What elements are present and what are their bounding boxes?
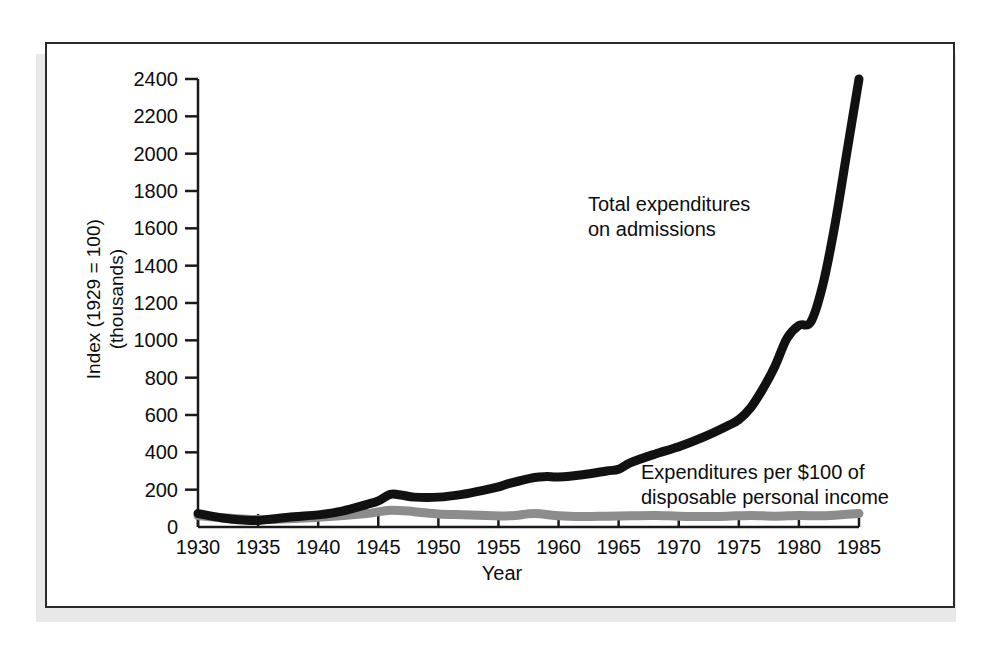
annotation-expenditures-per-income-line-2: disposable personal income	[641, 485, 889, 510]
annotation-expenditures-per-income: Expenditures per $100 of disposable pers…	[641, 460, 889, 510]
chart-plot-container: 0200400600800100012001400160018002000220…	[47, 44, 957, 610]
data-series-layer	[198, 79, 859, 521]
annotation-total-expenditures: Total expenditures on admissions	[588, 192, 750, 242]
x-axis-title: Year	[47, 562, 957, 585]
y-axis-title-line-2: (thousands)	[105, 149, 128, 449]
y-tick-label: 2400	[48, 69, 178, 89]
chart-figure-frame: 0200400600800100012001400160018002000220…	[45, 42, 955, 608]
x-tick-label: 1985	[819, 537, 899, 557]
series-line-total-expenditures	[198, 79, 859, 521]
annotation-expenditures-per-income-line-1: Expenditures per $100 of	[641, 460, 889, 485]
y-tick-label: 2200	[48, 106, 178, 126]
y-tick-label: 200	[48, 480, 178, 500]
y-tick-marks	[185, 79, 198, 490]
y-axis-title-line-1: Index (1929 = 100)	[82, 149, 105, 449]
annotation-total-expenditures-line-1: Total expenditures	[588, 192, 750, 217]
y-axis-title: Index (1929 = 100) (thousands)	[82, 149, 128, 449]
y-tick-label: 0	[48, 517, 178, 537]
chart-canvas	[47, 44, 957, 610]
annotation-total-expenditures-line-2: on admissions	[588, 217, 750, 242]
